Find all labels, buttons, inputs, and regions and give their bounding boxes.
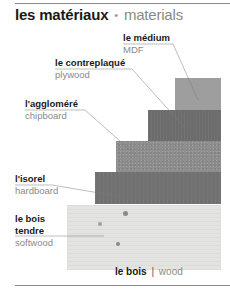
label-plywood: le contreplaqué plywood: [55, 57, 125, 81]
label-mdf: le médium MDF: [123, 32, 170, 56]
hardboard-sample: [95, 172, 221, 204]
caption-french: le bois: [115, 266, 147, 277]
label-softwood-french-line1: le bois: [15, 213, 53, 225]
wood-knot: [123, 211, 128, 216]
softwood-sample: [67, 205, 221, 270]
top-rule: [15, 3, 230, 4]
mdf-sample: [175, 78, 221, 110]
label-softwood: le bois tendre softwood: [15, 213, 53, 249]
caption-english: wood: [159, 266, 183, 277]
label-softwood-french-line2: tendre: [15, 225, 53, 237]
label-mdf-english: MDF: [123, 44, 170, 56]
title-english: materials: [124, 6, 183, 23]
page-title: les matériaux • materials: [15, 6, 183, 23]
title-french: les matériaux: [15, 6, 108, 23]
label-plywood-english: plywood: [55, 69, 125, 81]
label-chipboard-english: chipboard: [25, 110, 78, 122]
chipboard-sample: [116, 141, 221, 172]
label-hardboard-english: hardboard: [15, 185, 58, 197]
wood-knot: [116, 242, 120, 246]
title-bullet: •: [114, 9, 118, 21]
plywood-sample: [148, 110, 221, 141]
label-softwood-english: softwood: [15, 237, 53, 249]
label-hardboard-french: l'isorel: [15, 173, 58, 185]
label-plywood-french: le contreplaqué: [55, 57, 125, 69]
label-chipboard: l'aggloméré chipboard: [25, 98, 78, 122]
label-mdf-french: le médium: [123, 32, 170, 44]
bottom-rule: [15, 285, 230, 286]
label-hardboard: l'isorel hardboard: [15, 173, 58, 197]
wood-knot: [98, 222, 102, 226]
wood-caption: le bois | wood: [115, 266, 183, 277]
caption-separator: |: [151, 266, 154, 277]
label-chipboard-french: l'aggloméré: [25, 98, 78, 110]
